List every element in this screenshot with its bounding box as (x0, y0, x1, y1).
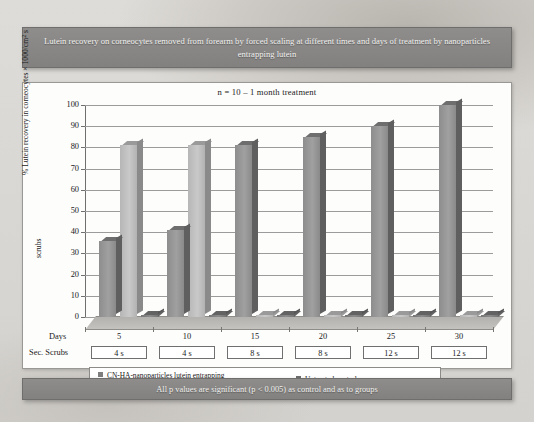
bar-side-face (116, 234, 122, 314)
y-tick-mark-70 (81, 169, 85, 170)
bar-front-face (188, 145, 205, 317)
scrubs-row: Sec. Scrubs 4 s4 s8 s8 s12 s12 s (23, 346, 511, 361)
y-tick-mark-30 (81, 253, 85, 254)
bar-front-face (120, 145, 137, 317)
gridline-10 (85, 296, 493, 297)
scrubs-cell-4: 12 s (363, 346, 419, 359)
gridline-50 (85, 211, 493, 212)
bar-s3-25 (413, 315, 430, 317)
y-tick-mark-0 (81, 317, 85, 318)
days-value-30: 30 (439, 332, 479, 341)
bar-s2-10 (188, 145, 205, 317)
bar-side-face (456, 99, 462, 314)
y-tick-mark-10 (81, 296, 85, 297)
bar-s2-20 (324, 315, 341, 317)
bar-side-face (320, 130, 326, 314)
y-tick-label-70: 70 (71, 165, 79, 173)
bar-s3-30 (481, 315, 498, 317)
bar-front-face (277, 315, 294, 317)
y-tick-label-100: 100 (66, 101, 79, 109)
scrubs-cell-5: 12 s (431, 346, 487, 359)
bar-front-face (345, 315, 362, 317)
y-tick-mark-50 (81, 211, 85, 212)
y-tick-mark-60 (81, 190, 85, 191)
bar-front-face (256, 315, 273, 317)
scrubs-row-label: Sec. Scrubs (29, 348, 68, 357)
bar-s2-25 (392, 315, 409, 317)
y-tick-label-40: 40 (71, 228, 79, 236)
footer-banner: All p values are significant (p < 0.005)… (22, 378, 512, 400)
y-tick-label-60: 60 (71, 186, 79, 194)
bar-side-face (388, 120, 394, 314)
page-background: Lutein recovery on corneocytes removed f… (0, 0, 534, 422)
gridline-20 (85, 275, 493, 276)
bar-front-face (481, 315, 498, 317)
title-banner: Lutein recovery on corneocytes removed f… (22, 27, 512, 68)
legend-swatch-icon-0 (98, 372, 103, 377)
days-value-10: 10 (167, 332, 207, 341)
chart-panel: n = 10 – 1 month treatment % Lutein reco… (22, 82, 512, 369)
days-row: Days 51015202530 (23, 332, 511, 345)
days-value-20: 20 (303, 332, 343, 341)
bar-front-face (324, 315, 341, 317)
bar-s1-15 (235, 145, 252, 317)
bar-s1-20 (303, 137, 320, 317)
y-tick-label-90: 90 (71, 122, 79, 130)
y-axis-label: % Lutein recovery in corneocytes × 1000/… (21, 0, 30, 175)
bar-s1-25 (371, 126, 388, 317)
bar-s2-15 (256, 315, 273, 317)
y-tick-label-80: 80 (71, 143, 79, 151)
y-tick-mark-20 (81, 275, 85, 276)
days-row-label: Days (49, 332, 66, 341)
gridline-100 (85, 105, 493, 106)
bar-front-face (413, 315, 430, 317)
y-tick-label-30: 30 (71, 249, 79, 257)
y-tick-label-0: 0 (75, 313, 79, 321)
chart-subtitle: n = 10 – 1 month treatment (23, 87, 511, 97)
bar-side-face (137, 139, 143, 314)
y-tick-label-50: 50 (71, 207, 79, 215)
gridline-70 (85, 169, 493, 170)
gridline-60 (85, 190, 493, 191)
gridline-30 (85, 253, 493, 254)
bar-front-face (235, 145, 252, 317)
bar-front-face (303, 137, 320, 317)
bar-front-face (141, 315, 158, 317)
days-value-25: 25 (371, 332, 411, 341)
gridline-90 (85, 126, 493, 127)
bar-front-face (167, 230, 184, 317)
bar-front-face (209, 315, 226, 317)
scrubs-cell-2: 8 s (227, 346, 283, 359)
days-value-15: 15 (235, 332, 275, 341)
bar-front-face (371, 126, 388, 317)
axis-label-rows: Days 51015202530 Sec. Scrubs 4 s4 s8 s8 … (23, 332, 511, 361)
days-value-5: 5 (99, 332, 139, 341)
y-axis-label-text: % Lutein recovery in corneocytes × 1000/… (21, 38, 30, 175)
y-tick-mark-80 (81, 147, 85, 148)
bar-front-face (392, 315, 409, 317)
plot-area: 0102030405060708090100 (85, 105, 493, 317)
bar-side-face (205, 139, 211, 314)
scrubs-cell-1: 4 s (159, 346, 215, 359)
bar-side-face (252, 139, 258, 314)
bar-front-face (460, 315, 477, 317)
y-axis-label-superscript: 2 (21, 35, 27, 38)
bar-s1-10 (167, 230, 184, 317)
bar-s2-5 (120, 145, 137, 317)
gridline-80 (85, 147, 493, 148)
y-tick-mark-90 (81, 126, 85, 127)
y-tick-mark-100 (81, 105, 85, 106)
bar-front-face (99, 241, 116, 317)
gridline-40 (85, 232, 493, 233)
bar-s3-5 (141, 315, 158, 317)
y-tick-mark-40 (81, 232, 85, 233)
bar-s1-5 (99, 241, 116, 317)
bar-s3-10 (209, 315, 226, 317)
y-tick-label-20: 20 (71, 271, 79, 279)
scrubs-cell-0: 4 s (91, 346, 147, 359)
bar-side-face (184, 224, 190, 314)
bar-s2-30 (460, 315, 477, 317)
bar-s3-20 (345, 315, 362, 317)
y-axis-label-line2: scrubs (34, 239, 43, 258)
y-tick-label-10: 10 (71, 292, 79, 300)
